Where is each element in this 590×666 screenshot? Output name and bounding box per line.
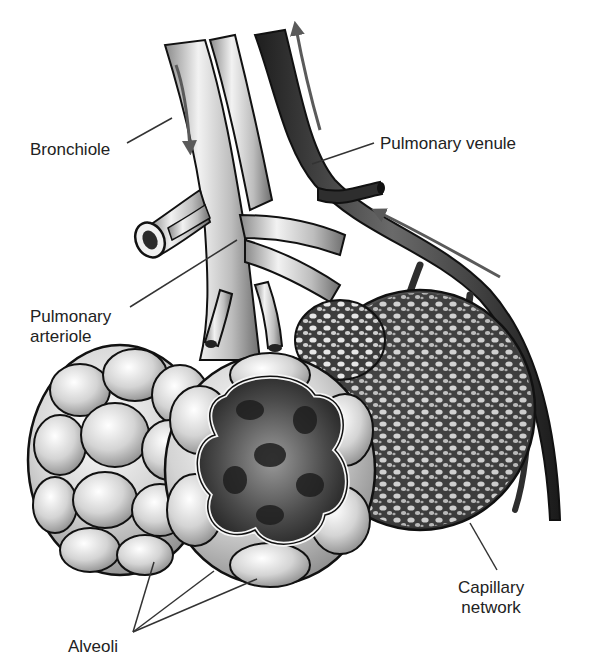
pulmonary-venule-leader xyxy=(312,143,374,164)
label-capillary-network-line1: Capillary xyxy=(458,578,524,598)
alveoli-diagram: Bronchiole Pulmonary venule Pulmonary ar… xyxy=(0,0,590,666)
label-alveoli: Alveoli xyxy=(68,637,118,657)
label-bronchiole: Bronchiole xyxy=(30,140,110,160)
label-pulmonary-arteriole-line1: Pulmonary xyxy=(30,307,111,327)
alveoli-leader-2 xyxy=(133,571,214,632)
label-pulmonary-venule: Pulmonary venule xyxy=(380,134,516,154)
label-pulmonary-arteriole-line2: arteriole xyxy=(30,327,111,347)
capillary-network-leader xyxy=(470,523,497,570)
alveolar-sac-cutaway xyxy=(165,353,375,587)
label-capillary-network-line2: network xyxy=(458,598,524,618)
label-pulmonary-arteriole: Pulmonary arteriole xyxy=(30,307,111,347)
alveoli-leader-3 xyxy=(133,579,257,632)
bronchiole-leader xyxy=(127,118,172,143)
label-capillary-network: Capillary network xyxy=(458,578,524,618)
